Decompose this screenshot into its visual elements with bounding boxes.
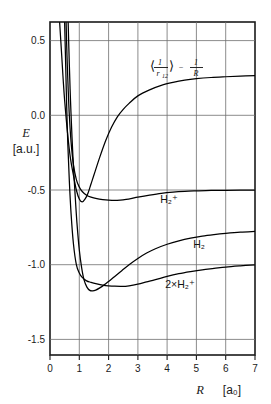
- y-tick-labels: 0.5 0.0 -0.5 -1.0 -1.5: [28, 35, 46, 345]
- y-axis-title: E: [21, 126, 30, 140]
- x-axis-title: R: [195, 383, 204, 397]
- minus-sign: −: [178, 63, 183, 72]
- y-tick-label-2: -0.5: [28, 185, 46, 196]
- curve-label-h2-plus: H₂⁺: [160, 193, 178, 205]
- y-tick-label-3: -1.0: [28, 259, 46, 270]
- fraction-denominator-2: R: [193, 69, 199, 78]
- y-tick-label-1: 0.0: [31, 110, 45, 121]
- x-tick-label-3: 3: [135, 363, 141, 374]
- x-tick-label-6: 6: [223, 363, 229, 374]
- y-tick-label-4: -1.5: [28, 334, 46, 345]
- x-tick-labels: 0 1 2 3 4 5 6 7: [47, 363, 258, 374]
- x-axis-unit: [a₀]: [223, 383, 241, 397]
- label-coulomb-repulsion: ⟨ 1 r 12 ⟩ − 1 R: [150, 58, 203, 79]
- fraction-numerator-1: 1: [158, 58, 162, 67]
- curve-label-h2: H₂: [193, 238, 205, 250]
- fraction-denominator-1-sub: 12: [162, 73, 168, 79]
- figure-container: 0.5 0.0 -0.5 -1.0 -1.5 0 1 2 3 4 5 6 7: [0, 0, 271, 404]
- x-tick-label-7: 7: [252, 363, 258, 374]
- fraction-denominator-1: r: [156, 69, 160, 78]
- angle-bracket-open-icon: ⟨: [150, 58, 155, 73]
- x-tick-label-0: 0: [47, 363, 53, 374]
- y-axis-unit: [a.u.]: [13, 142, 40, 156]
- x-tick-label-1: 1: [77, 363, 83, 374]
- x-tick-label-4: 4: [164, 363, 170, 374]
- y-tick-label-0: 0.5: [31, 35, 45, 46]
- x-tick-label-5: 5: [194, 363, 200, 374]
- curve-label-twice-h2-plus: 2×H₂⁺: [165, 278, 195, 290]
- x-tick-label-2: 2: [106, 363, 112, 374]
- angle-bracket-close-icon: ⟩: [169, 58, 174, 73]
- potential-energy-curves-chart: 0.5 0.0 -0.5 -1.0 -1.5 0 1 2 3 4 5 6 7: [0, 0, 271, 404]
- fraction-numerator-2: 1: [194, 58, 198, 67]
